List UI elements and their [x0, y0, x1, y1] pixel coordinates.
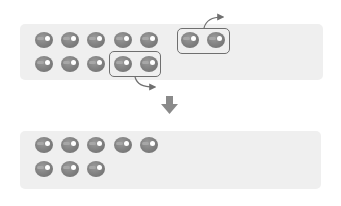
ball-icon — [87, 161, 105, 177]
curved-arrow-icon — [135, 77, 154, 87]
ball-icon — [61, 161, 79, 177]
ball-icon — [61, 137, 79, 153]
down-arrow-icon — [161, 96, 178, 114]
ball-icon — [87, 137, 105, 153]
curved-arrow-icon — [204, 17, 222, 28]
ball-icon — [140, 137, 158, 153]
ball-icon — [114, 137, 132, 153]
ball-icon — [35, 137, 53, 153]
ball-icon — [35, 161, 53, 177]
